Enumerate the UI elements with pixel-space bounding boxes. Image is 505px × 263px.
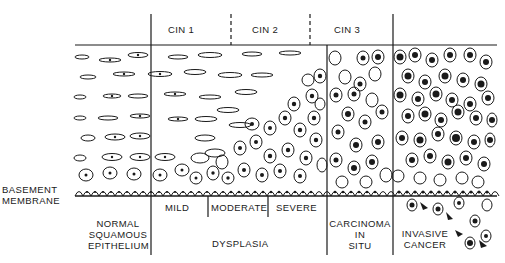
flattened-cells <box>74 51 301 163</box>
label-mild: MILD <box>165 202 189 213</box>
label-basement-line2: MEMBRANE <box>2 195 60 206</box>
label-basement-membrane: BASEMENT MEMBRANE <box>2 184 60 206</box>
cervical-neoplasia-diagram <box>0 0 505 263</box>
flattened-cell-nuclei <box>109 54 179 158</box>
atypical-cell-nuclei <box>85 52 496 246</box>
label-invasive-line2: CANCER <box>397 239 453 250</box>
label-cin1: CIN 1 <box>168 24 194 35</box>
label-normal-line2: SQUAMOUS <box>88 229 148 240</box>
label-carcinoma-in-situ: CARCINOMA IN SITU <box>328 218 392 251</box>
label-normal-line3: EPITHELIUM <box>88 240 148 251</box>
label-moderate: MODERATE <box>211 202 267 213</box>
label-normal-squamous-epithelium: NORMAL SQUAMOUS EPITHELIUM <box>88 218 148 251</box>
label-invasive-cancer: INVASIVE CANCER <box>397 228 453 250</box>
label-severe: SEVERE <box>276 202 317 213</box>
label-cin3: CIN 3 <box>334 24 360 35</box>
label-basement-line1: BASEMENT <box>2 184 60 195</box>
label-cin2: CIN 2 <box>252 24 278 35</box>
label-cis-line3: SITU <box>328 240 392 251</box>
label-dysplasia: DYSPLASIA <box>212 238 268 249</box>
label-normal-line1: NORMAL <box>88 218 148 229</box>
label-cis-line1: CARCINOMA <box>328 218 392 229</box>
label-cis-line2: IN <box>328 229 392 240</box>
label-invasive-line1: INVASIVE <box>397 228 453 239</box>
